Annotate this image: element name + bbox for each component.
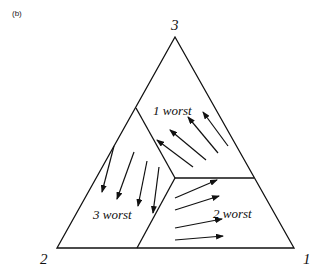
vertex-label-bottom-left: 2 [40,251,48,267]
arrow-icon [102,146,114,192]
region-1-arrows [157,112,228,167]
arrow-icon [175,180,217,198]
region-3-arrows [102,146,159,213]
arrow-icon [170,130,206,160]
arrow-icon [188,117,218,153]
arrow-icon [153,167,159,213]
arrow-icon [138,161,147,206]
region-label-2: 2 worst [213,206,252,221]
arrow-icon [117,152,134,199]
arrow-icon [203,112,228,146]
vertex-label-bottom-right: 1 [303,251,311,267]
ternary-diagram: 3 2 1 1 worst 2 worst 3 worst [0,0,325,272]
divider-upper-left [136,108,175,178]
vertex-label-top: 3 [170,17,179,33]
region-label-1: 1 worst [153,103,192,118]
region-label-3: 3 worst [92,207,132,222]
arrow-icon [175,236,223,240]
